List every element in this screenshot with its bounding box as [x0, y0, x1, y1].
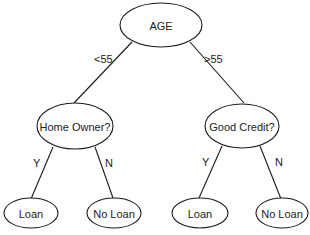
edge-good-credit-to-loan [199, 146, 222, 198]
node-good-credit-label: Good Credit? [209, 121, 274, 133]
leaf-no-loan-right-label: No Loan [261, 208, 303, 220]
leaf-loan-left: Loan [4, 198, 58, 228]
edge-label-no-left: N [105, 157, 113, 169]
edge-home-owner-to-no-loan [95, 147, 113, 198]
leaf-loan-right: Loan [172, 198, 228, 228]
node-good-credit: Good Credit? [205, 104, 279, 148]
leaf-no-loan-right: No Loan [256, 198, 308, 228]
edge-label-yes-right: Y [202, 156, 210, 168]
edge-label-no-right: N [275, 156, 283, 168]
edge-home-owner-to-loan [31, 147, 53, 199]
edge-root-to-home-owner [74, 42, 132, 103]
node-age-label: AGE [149, 20, 172, 32]
node-home-owner: Home Owner? [37, 103, 113, 149]
node-age: AGE [120, 3, 202, 47]
leaf-no-loan-left: No Loan [87, 198, 141, 228]
edge-root-to-good-credit [190, 42, 244, 103]
decision-tree-diagram: <55 >55 Y N Y N AGE Home Owner? Good Cre… [0, 0, 310, 235]
leaf-loan-left-label: Loan [19, 208, 43, 220]
edge-label-greater-than-55: >55 [204, 53, 223, 65]
node-home-owner-label: Home Owner? [40, 121, 111, 133]
edge-label-less-than-55: <55 [94, 53, 113, 65]
leaf-no-loan-left-label: No Loan [93, 208, 135, 220]
edge-label-yes-left: Y [33, 157, 41, 169]
leaf-loan-right-label: Loan [188, 208, 212, 220]
edge-good-credit-to-no-loan [260, 146, 281, 199]
